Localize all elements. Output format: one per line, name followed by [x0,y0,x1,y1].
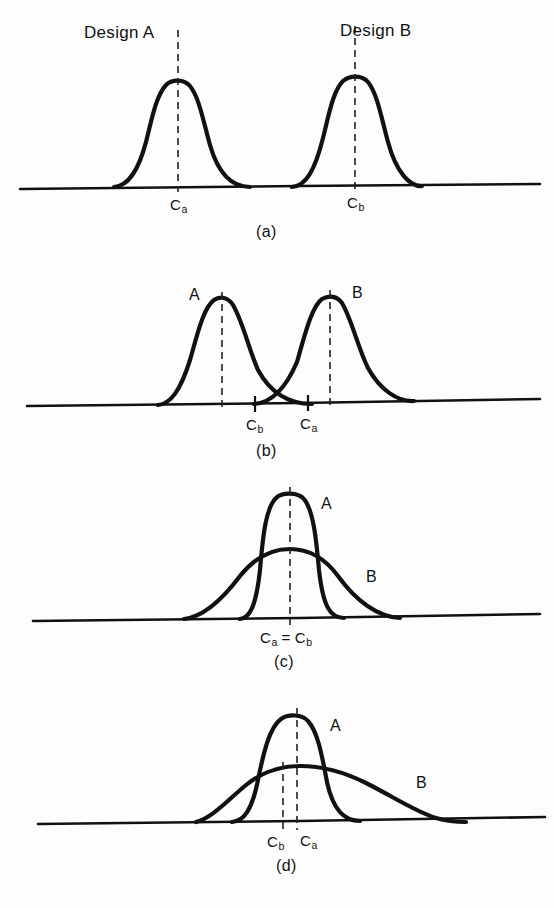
panel-b-center-a-letter: C [300,415,311,432]
panel-c-curve-a [240,494,344,619]
panel-d-center-a-letter: C [300,832,311,849]
panel-d-graphics [38,708,545,830]
panel-a-baseline [20,184,540,189]
panel-b-curve-a [158,298,312,405]
panel-d-center-a-subscript: a [312,839,318,851]
panel-a-center-b-subscript: b [359,201,365,213]
panel-b-curve-b [254,297,414,404]
panel-a-center-a-subscript: a [182,203,188,215]
panel-c-equals-sign: = C [277,629,306,646]
panel-b-curve-a-label: A [189,287,200,303]
panel-c-curve-a-label: A [321,496,332,512]
panel-c-center-b-subscript: b [306,636,312,648]
panel-a-center-b-letter: C [347,194,358,211]
panel-c-curve-b-label: B [366,569,377,585]
panel-a-curve-design-b [292,77,422,187]
figure-container: Design A Design B Ca Cb (a) A B Cb Ca (b… [0,0,554,908]
panel-b-caption: (b) [256,443,277,459]
panel-b-center-b-letter: C [246,416,257,433]
panel-c-caption: (c) [274,654,294,670]
panel-a-curve-design-a [114,81,250,187]
panel-c-center-a-letter: C [260,629,271,646]
panel-b-center-a-label: Ca [300,416,317,431]
panel-d-center-a-label: Ca [300,833,317,848]
panel-c-center-a-subscript: a [272,636,278,648]
panel-d-curve-b-label: B [416,775,427,791]
panel-b-center-b-subscript: b [258,423,264,435]
panel-b-baseline [27,399,540,406]
panel-a-center-a-label: Ca [170,197,187,212]
figure-drawing [0,0,554,908]
panel-d-baseline [38,817,545,824]
panel-c-graphics [33,487,540,625]
panel-a-center-b-label: Cb [347,195,364,210]
panel-d-caption: (d) [276,858,297,874]
panel-a-design-b-label: Design B [340,22,411,39]
panel-d-center-b-subscript: b [279,840,285,852]
panel-b-center-b-label: Cb [246,417,263,432]
panel-a-caption: (a) [256,224,277,240]
panel-d-center-b-letter: C [267,833,278,850]
panel-d-curve-a-label: A [330,718,341,734]
panel-c-baseline [33,614,540,621]
panel-b-curve-b-label: B [352,285,363,301]
panel-d-center-b-label: Cb [267,834,284,849]
panel-b-center-a-subscript: a [312,422,318,434]
panel-a-center-a-letter: C [170,196,181,213]
panel-a-graphics [20,26,540,192]
panel-c-center-equal-label: Ca = Cb [260,630,312,645]
panel-b-graphics [27,290,540,412]
panel-a-design-a-label: Design A [84,24,154,41]
